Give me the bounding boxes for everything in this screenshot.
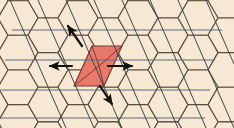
hexagon-layer <box>0 0 234 128</box>
lattice-figure <box>0 0 234 128</box>
lattice-canvas <box>0 0 234 128</box>
